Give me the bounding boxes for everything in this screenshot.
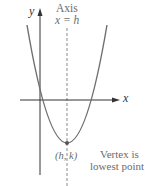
x-axis-arrow-icon bbox=[112, 98, 120, 103]
vertex-note-line2: lowest point bbox=[90, 161, 144, 172]
axis-of-symmetry-label: Axis bbox=[56, 3, 78, 14]
vertex-note-line1: Vertex is bbox=[100, 149, 139, 160]
y-axis-arrow-icon bbox=[38, 8, 43, 16]
y-axis-label: y bbox=[29, 6, 34, 17]
x-axis-label: x bbox=[123, 93, 128, 104]
parabola-diagram: y x Axis x = h (h, k) Vertex is lowest p… bbox=[0, 0, 151, 186]
vertex-label: (h, k) bbox=[55, 150, 77, 161]
vertex-point bbox=[65, 141, 69, 145]
axis-equation-label: x = h bbox=[55, 15, 79, 26]
